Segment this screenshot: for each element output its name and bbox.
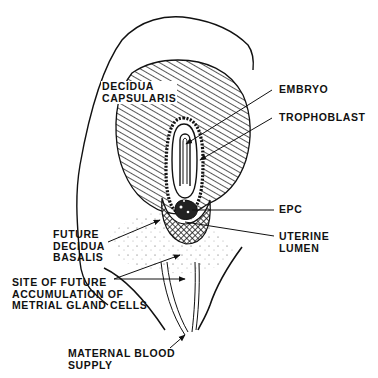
label-line: UTERINE (279, 231, 329, 243)
label-embryo: EMBRYO (279, 84, 328, 96)
label-line: SUPPLY (68, 360, 175, 372)
label-trophoblast: TROPHOBLAST (279, 112, 366, 124)
label-uterine-lumen: UTERINE LUMEN (279, 231, 329, 254)
label-line: CAPSULARIS (102, 93, 176, 105)
label-line: METRIAL GLAND CELLS (12, 300, 147, 312)
implantation-diagram (0, 0, 378, 378)
label-future-decidua-basalis: FUTURE DECIDUA BASALIS (53, 229, 105, 264)
blood-vessel-4 (196, 263, 199, 330)
label-line: SITE OF FUTURE (12, 277, 147, 289)
label-line: MATERNAL BLOOD (68, 348, 175, 360)
label-decidua-capsularis: DECIDUA CAPSULARIS (101, 81, 177, 104)
blood-vessel-3 (192, 262, 195, 332)
label-epc: EPC (279, 204, 302, 216)
label-maternal-blood-supply: MATERNAL BLOOD SUPPLY (68, 348, 175, 371)
label-line: FUTURE (53, 229, 105, 241)
label-line: LUMEN (279, 243, 329, 255)
label-line: BASALIS (53, 252, 105, 264)
label-site-of-future-accumulation: SITE OF FUTURE ACCUMULATION OF METRIAL G… (12, 277, 147, 312)
label-line: DECIDUA (102, 81, 176, 93)
embryonic-cavity (172, 124, 197, 198)
